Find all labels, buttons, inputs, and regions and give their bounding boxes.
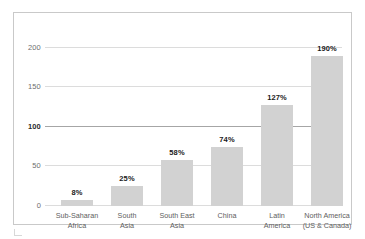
bar-slot-sub-saharan-africa: 8% Sub-Saharan Africa bbox=[61, 27, 93, 206]
bar-value-south-asia: 25% bbox=[111, 174, 143, 183]
chart-figure: 200 150 100 50 0 8% Sub-Saharan bbox=[0, 0, 365, 239]
bar-value-china: 74% bbox=[211, 135, 243, 144]
xtick-label-line1: South bbox=[118, 211, 137, 220]
bar-slot-south-asia: 25% South Asia bbox=[111, 27, 143, 206]
ytick-label-0: 0 bbox=[37, 201, 41, 210]
xtick-label-line1: China bbox=[218, 211, 237, 220]
bar-value-south-east-asia: 58% bbox=[161, 148, 193, 157]
bar-slot-south-east-asia: 58% South East Asia bbox=[161, 27, 193, 206]
bar-slot-latin-america: 127% Latin America bbox=[261, 27, 293, 206]
xtick-label-line1: North America bbox=[304, 211, 350, 220]
bar-value-north-america: 190% bbox=[311, 44, 343, 53]
xtick-label-line1: South East bbox=[159, 211, 194, 220]
xtick-label-line1: Latin bbox=[269, 211, 285, 220]
bar-slot-north-america: 190% North America (US & Canada) bbox=[311, 27, 343, 206]
xtick-label-line1: Sub-Saharan bbox=[56, 211, 98, 220]
bar-north-america[interactable] bbox=[311, 56, 343, 206]
bar-south-asia[interactable] bbox=[111, 186, 143, 206]
bar-value-sub-saharan-africa: 8% bbox=[61, 188, 93, 197]
chart-frame: 200 150 100 50 0 8% Sub-Saharan bbox=[13, 12, 352, 225]
bar-south-east-asia[interactable] bbox=[161, 160, 193, 206]
ytick-label-50: 50 bbox=[32, 161, 41, 170]
ytick-label-200: 200 bbox=[28, 42, 41, 51]
bar-latin-america[interactable] bbox=[261, 105, 293, 206]
ytick-label-150: 150 bbox=[28, 82, 41, 91]
ytick-label-100: 100 bbox=[28, 121, 41, 130]
xtick-label-line2: Asia bbox=[147, 221, 207, 231]
footer-corner-mark bbox=[14, 229, 22, 236]
xtick-label-north-america: North America (US & Canada) bbox=[297, 211, 357, 230]
bar-series: 8% Sub-Saharan Africa 25% South Asia bbox=[45, 27, 342, 206]
bar-value-latin-america: 127% bbox=[261, 93, 293, 102]
bar-china[interactable] bbox=[211, 147, 243, 206]
xtick-label-line2: (US & Canada) bbox=[297, 221, 357, 231]
bar-sub-saharan-africa[interactable] bbox=[61, 200, 93, 206]
bar-slot-china: 74% China bbox=[211, 27, 243, 206]
plot-area: 200 150 100 50 0 8% Sub-Saharan bbox=[45, 27, 342, 206]
